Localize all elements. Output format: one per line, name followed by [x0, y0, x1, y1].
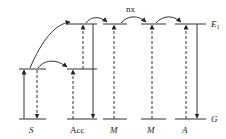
acc-to-m1-transfer-arrow [86, 18, 107, 23]
transfer-label: nx [126, 4, 136, 14]
energy-transfer-diagram: nx E1 G S Acc M M A [0, 0, 226, 139]
ground-label: G [211, 114, 218, 124]
species-label-s: S [29, 125, 34, 135]
species-label-acc: Acc [70, 125, 85, 135]
e1-label: E1 [210, 19, 220, 30]
species-label-m2: M [146, 125, 155, 135]
m1-to-m2-transfer-arrow [121, 17, 146, 23]
s-to-acc-transfer-arrow [38, 61, 67, 68]
species-label-m1: M [109, 125, 118, 135]
species-label-a: A [181, 125, 188, 135]
m2-to-a-transfer-arrow [156, 17, 181, 23]
